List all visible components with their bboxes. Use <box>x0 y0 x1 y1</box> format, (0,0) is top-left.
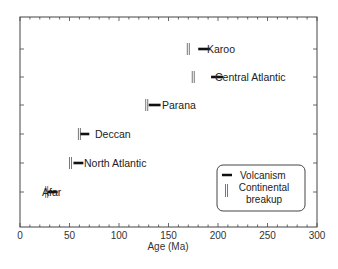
breakup-marker-icon <box>192 71 194 83</box>
x-tick-label: 0 <box>17 230 23 241</box>
breakup-marker-icon <box>187 43 189 55</box>
row-label: Deccan <box>95 128 131 140</box>
row-label: Karoo <box>207 43 235 55</box>
x-tick-label: 300 <box>309 230 326 241</box>
row-label: North Atlantic <box>84 157 146 169</box>
legend: Volcanism Continental breakup <box>217 165 305 211</box>
x-axis-tick-labels: 050100150200250300 <box>17 230 326 241</box>
x-tick-label: 100 <box>111 230 128 241</box>
x-axis-title: Age (Ma) <box>147 241 188 252</box>
x-tick-label: 50 <box>64 230 76 241</box>
legend-breakup-label-line1: Continental <box>239 182 290 193</box>
data-markers <box>46 43 223 198</box>
chart: 050100150200250300 Age (Ma) KarooCentral… <box>0 0 338 269</box>
legend-volcanism-label: Volcanism <box>240 170 286 181</box>
row-label: Parana <box>162 99 196 111</box>
breakup-marker-icon <box>146 99 148 111</box>
legend-breakup-label-line2: breakup <box>246 194 283 205</box>
row-label: Afar <box>42 186 62 198</box>
x-tick-label: 200 <box>210 230 227 241</box>
row-label: Central Atlantic <box>215 71 286 83</box>
breakup-marker-icon <box>78 128 80 140</box>
breakup-marker-icon <box>69 157 71 169</box>
x-tick-label: 150 <box>160 230 177 241</box>
x-tick-label: 250 <box>259 230 276 241</box>
